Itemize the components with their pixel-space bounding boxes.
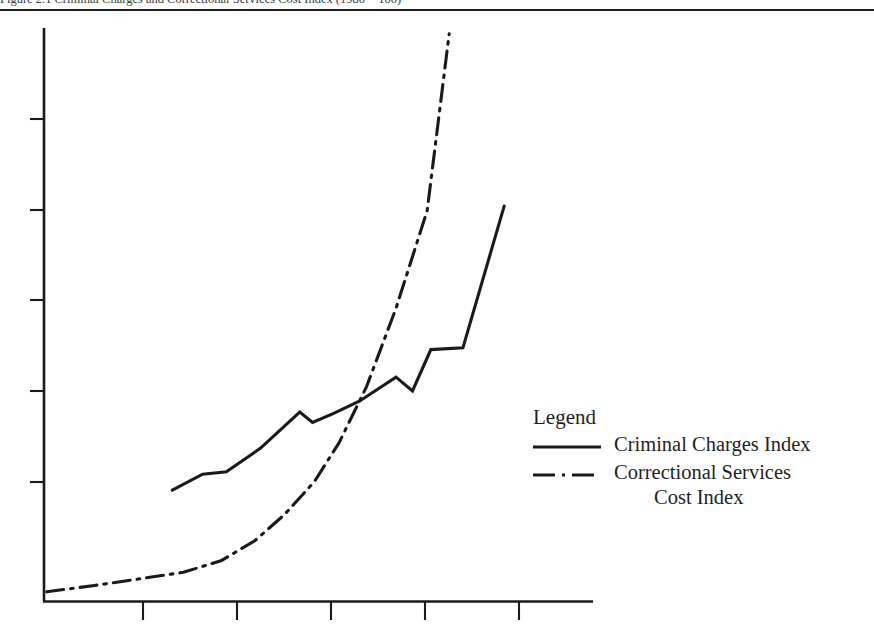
legend-entry-correctional-services: Correctional Services Cost Index (531, 460, 861, 510)
chart-series-group (47, 34, 504, 592)
x-axis-ticks (143, 601, 519, 620)
chart-axes (30, 28, 593, 620)
legend-label-correctional-services: Correctional Services Cost Index (603, 460, 791, 510)
chart-legend: Legend Criminal Charges Index Correction… (531, 404, 861, 510)
y-axis-ticks (30, 119, 44, 482)
dash-dot-line-swatch (531, 460, 603, 486)
legend-entry-criminal-charges: Criminal Charges Index (531, 432, 861, 458)
dash-dot-line-swatch-icon (531, 460, 603, 486)
line-chart-plot (0, 0, 874, 634)
series-line-correctional-services-cost-index (47, 34, 449, 592)
solid-line-swatch (531, 432, 603, 458)
legend-label-correctional-services-line1: Correctional Services (614, 461, 791, 483)
solid-line-swatch-icon (531, 432, 603, 458)
legend-label-correctional-services-line2: Cost Index (614, 485, 791, 510)
series-line-criminal-charges-index (172, 206, 504, 490)
chart-page: Figure 2.1 Criminal Charges and Correcti… (0, 0, 874, 634)
legend-title: Legend (533, 404, 861, 430)
legend-label-criminal-charges: Criminal Charges Index (603, 432, 811, 457)
